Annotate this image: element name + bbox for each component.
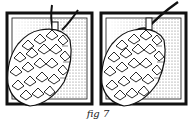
right-panel <box>96 0 191 108</box>
pinecone-frame-illustration <box>96 0 191 108</box>
left-panel <box>0 0 95 108</box>
figure-caption: fig 7 <box>86 107 110 120</box>
pinecone-frame-illustration <box>0 0 95 108</box>
